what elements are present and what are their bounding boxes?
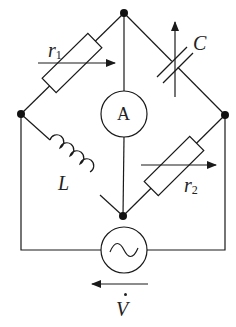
r2-label: r2 [184, 175, 198, 196]
l-label: L [58, 173, 69, 193]
node-top [120, 9, 128, 17]
source-voltage-label: V [116, 299, 128, 319]
r1-label-subscript: 1 [56, 48, 62, 62]
node-right [221, 111, 229, 119]
r2-label-subscript: 2 [192, 183, 198, 197]
r1-label: r1 [48, 40, 62, 61]
bridge-circuit-diagram: r1 C L r2 A V [0, 0, 236, 327]
r2-label-letter: r [184, 174, 192, 196]
node-left [17, 110, 25, 118]
c-label: C [193, 33, 206, 53]
r1-label-letter: r [48, 39, 56, 61]
node-bottom [119, 212, 127, 220]
phasor-dot-icon [124, 293, 127, 296]
ammeter-label: A [117, 105, 130, 123]
